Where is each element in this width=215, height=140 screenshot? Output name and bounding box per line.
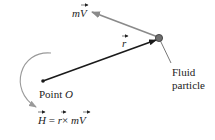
point-o-label: Point O [39,88,73,100]
momentum-label: mV [72,5,88,19]
particle-label-line1: Fluid [172,66,196,78]
momentum-vector-arrow [92,12,158,37]
fluid-particle [155,34,162,41]
angular-momentum-diagram: mV r Fluid particle Point O H = r× mV [0,0,215,140]
angular-momentum-formula: H = r× mV [37,112,90,126]
point-o-dot [41,79,45,83]
svg-text:r: r [122,37,127,49]
particle-leader-line [160,40,171,63]
position-vector-arrow [43,40,156,81]
svg-text:mV: mV [72,7,88,19]
svg-text:H = r× mV: H = r× mV [37,114,87,126]
position-label: r [122,36,128,49]
particle-label-line2: particle [172,79,205,91]
